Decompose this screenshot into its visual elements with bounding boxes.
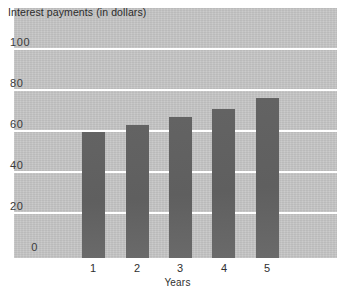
y-tick-label-60: 60 [10,118,44,130]
bar-chart-figure: Interest payments (in dollars) 100 80 60… [0,0,355,296]
x-tick-label-4: 4 [209,262,239,274]
x-tick-label-3: 3 [165,262,195,274]
gridline-80 [14,89,337,91]
bar-year-1 [82,132,105,258]
x-tick-label-5: 5 [252,262,282,274]
x-tick-label-2: 2 [122,262,152,274]
y-tick-label-80: 80 [10,77,44,89]
chart-title: Interest payments (in dollars) [8,6,146,18]
bar-year-4 [212,109,235,258]
y-tick-label-0: 0 [8,241,38,253]
gridline-100 [14,48,337,50]
bar-year-3 [169,117,192,258]
x-axis-label: Years [0,277,355,288]
y-tick-label-100: 100 [10,36,44,48]
y-tick-label-40: 40 [10,159,44,171]
x-tick-label-1: 1 [78,262,108,274]
y-tick-label-20: 20 [10,200,44,212]
bar-year-5 [256,98,279,258]
bar-year-2 [126,125,149,258]
